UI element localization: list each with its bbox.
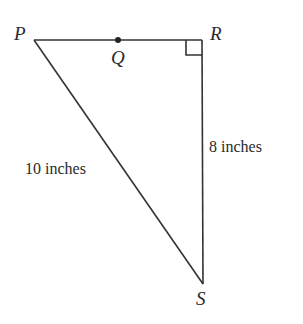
right-angle-marker <box>186 40 202 55</box>
triangle-diagram: P Q R S 10 inches 8 inches <box>0 0 303 324</box>
point-q-dot <box>115 37 121 43</box>
label-r: R <box>209 23 222 44</box>
segment-rs <box>202 40 203 284</box>
measure-rs: 8 inches <box>209 138 262 155</box>
label-s: S <box>196 288 206 309</box>
measure-ps: 10 inches <box>25 160 86 177</box>
label-q: Q <box>111 47 125 68</box>
label-p: P <box>13 23 26 44</box>
